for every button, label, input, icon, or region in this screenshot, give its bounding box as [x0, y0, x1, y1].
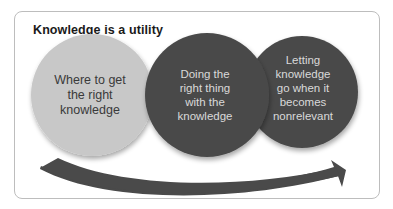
step-2-line: Doing the [178, 67, 233, 81]
step-2-line: knowledge [178, 109, 233, 123]
step-3-line: becomes [273, 95, 333, 109]
step-3-line: nonrelevant [273, 109, 333, 123]
step-1-line: the right [54, 88, 126, 103]
step-3-line: go when it [273, 81, 333, 95]
step-3-line: Letting [273, 53, 333, 67]
step-1-line: Where to get [54, 73, 126, 88]
step-3-label: Letting knowledge go when it becomes non… [258, 43, 348, 133]
step-3-line: knowledge [273, 67, 333, 81]
step-2-label: Doing the right thing with the knowledge [162, 55, 248, 135]
step-1-line: knowledge [54, 103, 126, 118]
step-1-label: Where to get the right knowledge [40, 60, 140, 130]
step-2-line: with the [178, 95, 233, 109]
step-2-line: right thing [178, 81, 233, 95]
